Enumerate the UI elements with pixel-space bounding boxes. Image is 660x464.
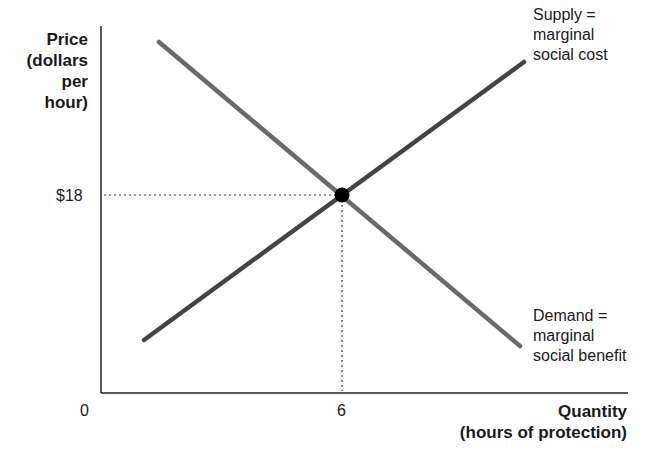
supply-label-line: Supply =: [533, 5, 608, 25]
y-axis-label-line: per: [27, 71, 88, 92]
demand-label: Demand = marginal social benefit: [533, 306, 626, 366]
x-axis-label-line: (hours of protection): [460, 422, 627, 443]
origin-tick-label: 0: [80, 401, 89, 420]
demand-label-line: marginal: [533, 326, 626, 346]
diagram-canvas: [0, 0, 660, 464]
demand-label-line: social benefit: [533, 346, 626, 366]
supply-label-line: social cost: [533, 45, 608, 65]
price-tick-label: $18: [56, 186, 83, 205]
equilibrium-point: [335, 188, 350, 203]
x-axis-label-line: Quantity: [460, 401, 627, 422]
demand-label-line: Demand =: [533, 306, 626, 326]
y-axis-label-line: (dollars: [27, 50, 88, 71]
supply-label: Supply = marginal social cost: [533, 5, 608, 65]
y-axis-label: Price (dollars per hour): [27, 29, 88, 113]
supply-label-line: marginal: [533, 25, 608, 45]
quantity-tick-label: 6: [337, 401, 346, 420]
supply-curve: [144, 62, 524, 340]
x-axis-label: Quantity (hours of protection): [460, 401, 627, 443]
y-axis-label-line: Price: [27, 29, 88, 50]
y-axis-label-line: hour): [27, 92, 88, 113]
